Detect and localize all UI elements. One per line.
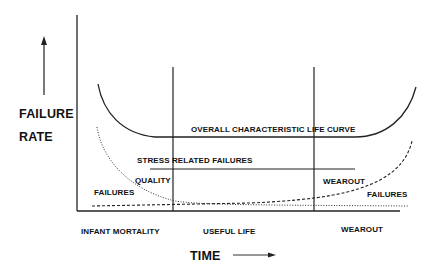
- overall-curve-label: OVERALL CHARACTERISTIC LIFE CURVE: [191, 126, 355, 134]
- y-axis-label-rate: RATE: [19, 131, 53, 144]
- wearout-failures-label: FAILURES: [367, 191, 407, 199]
- quality-label: QUALITY: [135, 177, 171, 185]
- region-infant-mortality: INFANT MORTALITY: [81, 228, 160, 236]
- region-wearout: WEAROUT: [341, 226, 383, 234]
- up-arrow-icon: [41, 36, 47, 95]
- stress-failures-label: STRESS RELATED FAILURES: [137, 157, 253, 165]
- y-axis-label-failure: FAILURE: [19, 108, 74, 121]
- wearout-failures-curve: [92, 141, 412, 206]
- quality-failures-label: FAILURES: [94, 189, 134, 197]
- right-arrow-icon: [233, 253, 276, 258]
- region-useful-life: USEFUL LIFE: [203, 228, 256, 236]
- quality-failures-curve: [97, 127, 408, 206]
- wearout-label: WEAROUT: [323, 178, 365, 186]
- x-axis-label-time: TIME: [190, 250, 221, 263]
